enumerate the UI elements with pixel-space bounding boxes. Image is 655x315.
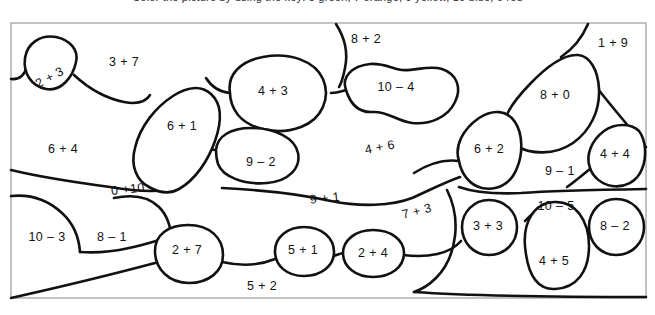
label-4plus5: 4 + 5 (539, 254, 569, 268)
label-10minus4: 10 – 4 (377, 80, 414, 94)
worksheet-canvas: 2 + 3 3 + 7 6 + 4 6 + 1 0 +10 10 – 3 8 –… (0, 0, 655, 315)
label-2plus4: 2 + 4 (358, 246, 388, 260)
label-8plus2: 8 + 2 (351, 32, 381, 46)
label-2plus7: 2 + 7 (172, 243, 202, 257)
label-6plus1: 6 + 1 (167, 119, 197, 133)
label-9minus2: 9 – 2 (246, 155, 276, 169)
label-5plus2: 5 + 2 (247, 279, 277, 293)
label-8minus1: 8 – 1 (97, 230, 127, 244)
label-8plus0: 8 + 0 (540, 88, 570, 102)
label-10minus3: 10 – 3 (28, 230, 65, 244)
label-6plus4: 6 + 4 (48, 142, 78, 156)
label-6plus2: 6 + 2 (474, 142, 504, 156)
coloring-worksheet: Color the picture by using the key: 5 gr… (0, 0, 655, 315)
label-4plus3: 4 + 3 (258, 84, 288, 98)
label-4plus4: 4 + 4 (600, 147, 630, 161)
label-8minus2: 8 – 2 (600, 219, 630, 233)
region-shape-4plus5[interactable] (525, 202, 589, 289)
label-10minus5: 10 – 5 (537, 199, 574, 213)
label-9minus1: 9 – 1 (545, 164, 575, 178)
label-1plus9: 1 + 9 (598, 36, 628, 50)
label-5plus1: 5 + 1 (288, 243, 318, 257)
label-3plus3: 3 + 3 (473, 219, 503, 233)
label-3plus7: 3 + 7 (109, 55, 139, 69)
